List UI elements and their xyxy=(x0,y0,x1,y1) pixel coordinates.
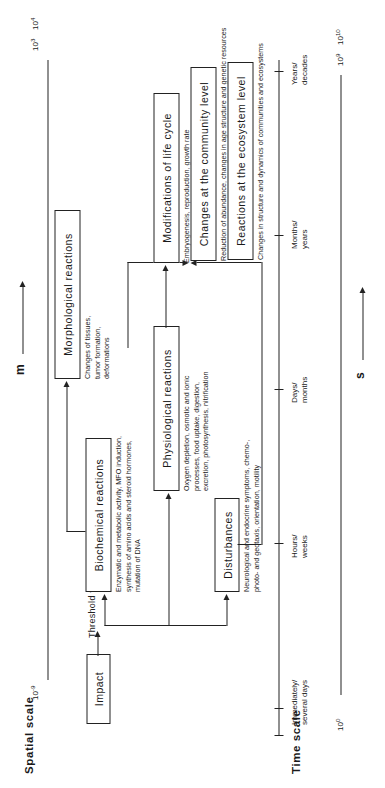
time-tick-label-4: Years/ decades xyxy=(289,55,310,85)
caption-physiological-reactions: Oxygen depletion, osmotic and ionic proc… xyxy=(181,291,210,491)
time-axis-tick-1 xyxy=(274,543,283,544)
node-biochemical-reactions[interactable]: Biochemical reactions xyxy=(85,438,111,592)
node-disturbances[interactable]: Disturbances xyxy=(214,498,239,592)
spatial-axis-left-label: 10-9 xyxy=(28,686,40,700)
spatial-axis-right-label-1: 103 xyxy=(28,39,40,51)
diagram-canvas: Spatial scale 10-9 103 104 m Time scale … xyxy=(0,0,385,788)
time-axis-unit: s xyxy=(352,372,366,379)
spatial-axis-line xyxy=(47,60,48,680)
morph-to-lifecycle-line xyxy=(127,262,128,348)
caption-ecosystem-level: Changes in structure and dynamics of com… xyxy=(255,0,265,260)
trunk-to-physiological-line xyxy=(168,498,169,626)
physio-to-lifecycle-arrow xyxy=(162,265,168,271)
time-unit-arrow-head xyxy=(359,287,365,293)
time-axis-tick-origin xyxy=(274,735,283,736)
impact-out-line xyxy=(97,636,98,656)
time-axis-tick-3 xyxy=(274,235,283,236)
node-impact[interactable]: Impact xyxy=(86,654,110,724)
node-modifications-life-cycle[interactable]: Modifications of life cycle xyxy=(153,93,179,263)
time-axis-tick-4 xyxy=(274,71,283,72)
biochem-to-morph-line xyxy=(66,386,67,532)
disturb-to-lifecycle-riser xyxy=(196,262,261,263)
caption-community-level: Reduction of abundance, changes in age s… xyxy=(218,0,228,261)
spatial-unit-arrow-head xyxy=(19,281,25,287)
spatial-axis-unit: m xyxy=(12,364,26,375)
time-axis-tick-2 xyxy=(274,389,283,390)
time-tick-label-3: Months/ years xyxy=(289,221,310,249)
time-tick-label-1: Hours/ weeks xyxy=(289,534,310,558)
time-unit-scale-line xyxy=(340,75,341,695)
time-axis-line xyxy=(278,60,279,736)
node-ecosystem-level[interactable]: Reactions at the ecosystem level xyxy=(227,62,253,260)
trunk-to-disturbances-arrow xyxy=(223,594,229,600)
time-axis-right-label-1: 109 xyxy=(333,54,345,66)
disturb-to-lifecycle-drop xyxy=(237,544,261,545)
disturb-to-lifecycle-line xyxy=(261,262,262,545)
trunk-to-biochemical-line xyxy=(104,599,105,626)
spatial-scale-title: Spatial scale xyxy=(22,697,34,774)
trunk-to-disturbances-line xyxy=(226,599,227,626)
biochem-to-morph-riser xyxy=(66,531,85,532)
time-axis-left-label: 100 xyxy=(333,719,345,731)
time-axis-tick-0 xyxy=(274,708,283,709)
time-unit-arrow-line xyxy=(362,292,363,360)
caption-biochemical-reactions: Enzymatic and metabolic activity, MFO in… xyxy=(113,387,142,592)
time-tick-label-2: Days/ months xyxy=(289,377,310,403)
threshold-trunk xyxy=(104,625,226,626)
trunk-to-physiological-arrow xyxy=(165,493,171,499)
caption-morphological-reactions: Changes of tissues, tumor formation, def… xyxy=(82,209,111,379)
node-community-level[interactable]: Changes at the community level xyxy=(190,67,216,261)
caption-disturbances: Neurological and endocrine symptoms, che… xyxy=(241,377,260,592)
caption-modifications-life-cycle: Embryogenesis, reproduction, growth rate xyxy=(181,63,191,263)
node-physiological-reactions[interactable]: Physiological reactions xyxy=(153,326,179,491)
node-morphological-reactions[interactable]: Morphological reactions xyxy=(54,210,80,379)
spatial-axis-right-label-2: 104 xyxy=(28,18,40,30)
trunk-to-biochemical-arrow xyxy=(101,594,107,600)
time-tick-label-0: Immediately/ several days xyxy=(289,680,310,725)
spatial-unit-arrow-line xyxy=(22,286,23,354)
biochem-to-morph-arrow xyxy=(63,381,69,387)
time-axis-right-label-2: 1010 xyxy=(333,29,345,45)
physio-to-lifecycle-line xyxy=(165,270,166,328)
